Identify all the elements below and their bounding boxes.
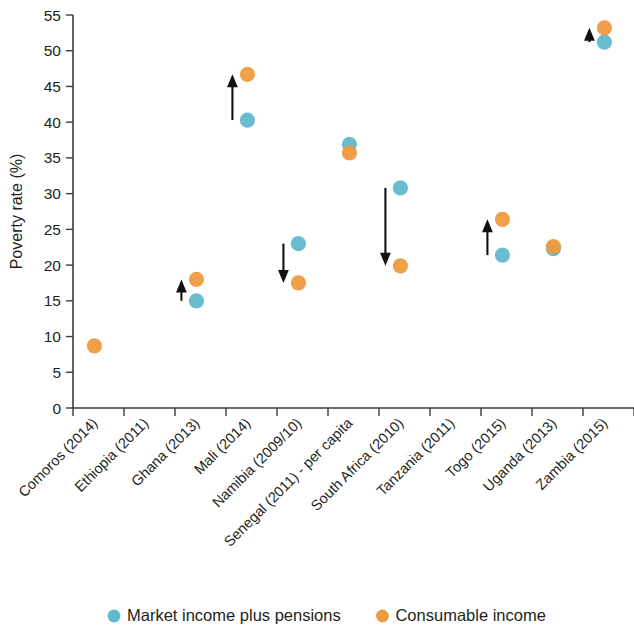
data-point-marker	[291, 275, 306, 290]
y-tick-label: 15	[44, 292, 61, 309]
x-axis-category-label: South Africa (2010)	[308, 415, 407, 514]
arrow-head	[380, 253, 391, 266]
data-point-marker	[240, 112, 255, 127]
arrow-head	[584, 28, 595, 41]
data-point-marker	[393, 180, 408, 195]
y-tick-label: 50	[44, 42, 62, 59]
x-axis-category-text: South Africa (2010)	[308, 415, 407, 514]
trend-arrow-up	[227, 74, 238, 120]
data-point-marker	[189, 272, 204, 287]
trend-arrow-up	[176, 279, 187, 300]
y-axis-title: Poverty rate (%)	[8, 154, 25, 270]
y-tick-label: 10	[44, 328, 62, 345]
data-point-marker	[495, 247, 510, 262]
arrow-head	[227, 74, 238, 87]
data-point-marker	[597, 20, 612, 35]
data-point-marker	[393, 258, 408, 273]
arrow-head	[278, 270, 289, 283]
data-point-marker	[240, 67, 255, 82]
chart-canvas: 0510152025303540455055Poverty rate (%)Co…	[0, 0, 634, 639]
arrow-head	[482, 219, 493, 232]
data-point-marker	[597, 35, 612, 50]
trend-arrow-up	[584, 28, 595, 42]
legend-label-market-income: Market income plus pensions	[127, 606, 341, 624]
y-tick-label: 55	[44, 7, 61, 24]
trend-arrow-down	[380, 188, 391, 266]
x-axis-category-label: Namibia (2009/10)	[209, 415, 305, 511]
chart-legend: Market income plus pensionsConsumable in…	[108, 606, 546, 624]
legend-swatch-market-income	[108, 610, 121, 623]
data-point-marker	[189, 293, 204, 308]
y-tick-label: 5	[52, 364, 61, 381]
data-point-marker	[291, 236, 306, 251]
data-point-marker	[342, 145, 357, 160]
y-tick-label: 25	[44, 221, 61, 238]
legend-label-consumable-income: Consumable income	[395, 606, 545, 624]
y-tick-label: 45	[44, 78, 61, 95]
y-tick-label: 35	[44, 149, 61, 166]
y-tick-label: 40	[44, 114, 62, 131]
y-tick-label: 0	[52, 400, 61, 417]
legend-swatch-consumable-income	[376, 610, 389, 623]
data-point-marker	[87, 338, 102, 353]
y-tick-label: 20	[44, 257, 62, 274]
x-axis-category-text: Namibia (2009/10)	[209, 415, 305, 511]
data-point-marker	[546, 239, 561, 254]
arrow-head	[176, 279, 187, 292]
trend-arrow-down	[278, 244, 289, 283]
trend-arrow-up	[482, 219, 493, 255]
poverty-rate-scatter-chart: 0510152025303540455055Poverty rate (%)Co…	[0, 0, 634, 639]
data-point-marker	[495, 212, 510, 227]
y-tick-label: 30	[44, 185, 62, 202]
